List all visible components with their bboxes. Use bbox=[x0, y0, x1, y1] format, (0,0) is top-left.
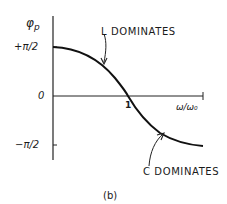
y-axis-label-subscript: p bbox=[34, 22, 40, 32]
l-dominates-arrow bbox=[104, 34, 106, 62]
y-tick-label-zero: 0 bbox=[38, 91, 44, 101]
x-tick-label-one: 1 bbox=[125, 101, 131, 110]
y-tick-label-plus-pi-2: +π/2 bbox=[14, 42, 38, 52]
x-axis-label: ω/ω₀ bbox=[176, 103, 198, 112]
y-axis-label-main: φ bbox=[26, 16, 34, 30]
figure-caption: (b) bbox=[103, 191, 117, 201]
c-dominates-arrow bbox=[149, 134, 163, 166]
annotation-c-dominates: C DOMINATES bbox=[143, 167, 219, 177]
y-tick-label-minus-pi-2: −π/2 bbox=[15, 140, 39, 150]
y-axis-label: φp bbox=[26, 17, 40, 29]
annotation-l-dominates: L DOMINATES bbox=[101, 27, 176, 37]
